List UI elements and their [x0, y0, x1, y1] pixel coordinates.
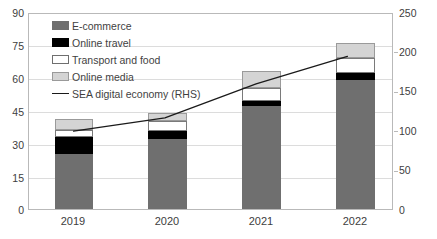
legend-label-online-travel: Online travel — [72, 37, 131, 49]
category-label-2019: 2019 — [43, 215, 103, 228]
bar-2021-segment-transport-and-food[interactable] — [242, 88, 281, 101]
bar-2022-segment-ecommerce[interactable] — [336, 80, 375, 209]
right-axis-tick-50: 50 — [399, 165, 429, 176]
right-axis-tick-150: 150 — [399, 86, 429, 97]
legend-swatch-online-media-icon — [52, 72, 69, 81]
chart-legend: E-commerce Online travel Transport and f… — [52, 17, 242, 102]
left-axis-tick-0: 0 — [2, 205, 24, 216]
bar-2020-segment-ecommerce[interactable] — [148, 139, 187, 209]
bar-2021-segment-online-media[interactable] — [242, 71, 281, 87]
bar-2021[interactable] — [242, 71, 281, 209]
left-value-axis: 90 75 60 45 30 15 0 — [0, 0, 24, 239]
bar-2019-segment-online-media[interactable] — [55, 119, 93, 130]
right-value-axis: 250 200 150 100 50 0 — [399, 0, 437, 239]
right-axis-tickmark-150 — [394, 92, 398, 93]
chart-container: 90 75 60 45 30 15 0 — [0, 0, 437, 239]
bar-2022-segment-online-travel[interactable] — [336, 73, 375, 80]
right-axis-tick-100: 100 — [399, 126, 429, 137]
left-axis-tick-75: 75 — [2, 41, 24, 52]
left-axis-tick-60: 60 — [2, 74, 24, 85]
legend-swatch-ecommerce-icon — [52, 21, 69, 30]
left-axis-tick-90: 90 — [2, 8, 24, 19]
legend-swatch-transport-and-food-icon — [52, 55, 69, 64]
legend-label-transport-and-food: Transport and food — [72, 54, 160, 66]
category-label-2020: 2020 — [137, 215, 197, 228]
legend-label-ecommerce: E-commerce — [72, 20, 132, 32]
bar-2022-segment-transport-and-food[interactable] — [336, 58, 375, 73]
right-axis-tick-200: 200 — [399, 47, 429, 58]
legend-swatch-online-travel-icon — [52, 38, 69, 47]
category-label-2022: 2022 — [325, 215, 385, 228]
right-axis-tickmark-200 — [394, 52, 398, 53]
bar-2022[interactable] — [336, 43, 375, 209]
bar-2020-segment-online-media[interactable] — [148, 113, 187, 122]
bar-2019-segment-online-travel[interactable] — [55, 137, 93, 155]
bar-2020[interactable] — [148, 113, 187, 209]
bar-2020-segment-online-travel[interactable] — [148, 131, 187, 139]
bar-2019-segment-transport-and-food[interactable] — [55, 130, 93, 137]
category-label-2021: 2021 — [231, 215, 291, 228]
right-axis-tick-0: 0 — [399, 205, 429, 216]
legend-item-ecommerce[interactable]: E-commerce — [52, 17, 242, 34]
bar-2019-segment-ecommerce[interactable] — [55, 154, 93, 209]
legend-label-online-media: Online media — [72, 71, 134, 83]
legend-label-sea-digital-economy: SEA digital economy (RHS) — [72, 88, 200, 100]
bar-2019[interactable] — [55, 119, 93, 209]
legend-line-marker-icon — [52, 89, 69, 98]
legend-item-online-media[interactable]: Online media — [52, 68, 242, 85]
right-axis-tick-250: 250 — [399, 8, 429, 19]
legend-item-transport-and-food[interactable]: Transport and food — [52, 51, 242, 68]
legend-item-online-travel[interactable]: Online travel — [52, 34, 242, 51]
bar-2020-segment-transport-and-food[interactable] — [148, 121, 187, 131]
legend-item-sea-digital-economy[interactable]: SEA digital economy (RHS) — [52, 85, 242, 102]
left-axis-tick-30: 30 — [2, 140, 24, 151]
bar-2022-segment-online-media[interactable] — [336, 43, 375, 58]
left-axis-tick-45: 45 — [2, 107, 24, 118]
right-axis-tickmark-100 — [394, 131, 398, 132]
bar-2021-segment-ecommerce[interactable] — [242, 106, 281, 209]
right-axis-tickmark-50 — [394, 171, 398, 172]
left-axis-tick-15: 15 — [2, 173, 24, 184]
